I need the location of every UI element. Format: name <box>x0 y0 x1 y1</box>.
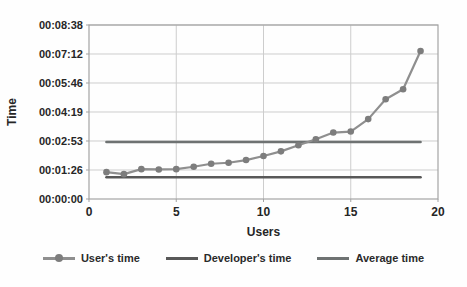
gridlines <box>89 25 438 199</box>
x-tick-label: 0 <box>86 205 93 219</box>
data-point <box>121 171 128 178</box>
data-point <box>103 169 110 176</box>
data-point <box>347 128 354 135</box>
data-point <box>225 159 232 166</box>
data-point <box>417 48 424 55</box>
data-point <box>382 96 389 103</box>
data-point <box>313 136 320 143</box>
average-time-line-swatch <box>317 257 349 260</box>
chart-legend: User's time Developer's time Average tim… <box>0 252 467 264</box>
x-axis-title: Users <box>247 225 281 239</box>
data-point <box>173 166 180 173</box>
y-tick-label: 00:07:12 <box>39 48 83 60</box>
line-chart: 00:00:0000:01:2600:02:5300:04:1900:05:46… <box>0 0 467 248</box>
data-point <box>138 166 145 173</box>
y-tick-label: 00:02:53 <box>39 135 83 147</box>
x-tick-label: 15 <box>344 205 358 219</box>
legend-label-developers-time: Developer's time <box>204 252 292 264</box>
data-point <box>260 153 267 160</box>
y-tick-label: 00:04:19 <box>39 106 83 118</box>
y-axis-title: Time <box>5 98 19 126</box>
data-point <box>330 129 337 136</box>
legend-label-users-time: User's time <box>81 252 140 264</box>
y-axis: 00:00:0000:01:2600:02:5300:04:1900:05:46… <box>39 19 89 205</box>
x-axis: 05101520 <box>86 199 445 219</box>
legend-item-developers-time: Developer's time <box>166 252 292 264</box>
legend-item-users-time: User's time <box>43 252 140 264</box>
data-point <box>190 163 197 170</box>
x-tick-label: 5 <box>173 205 180 219</box>
chart-figure: 00:00:0000:01:2600:02:5300:04:1900:05:46… <box>0 0 467 287</box>
data-point <box>400 86 407 93</box>
legend-label-average-time: Average time <box>355 252 424 264</box>
data-point <box>295 142 302 149</box>
y-tick-label: 00:01:26 <box>39 164 83 176</box>
x-tick-label: 20 <box>431 205 445 219</box>
data-point <box>156 166 163 173</box>
users-time-marker-icon <box>55 254 63 262</box>
developers-time-line-swatch <box>166 257 198 260</box>
users-time-line-swatch <box>43 257 75 260</box>
y-tick-label: 00:05:46 <box>39 77 83 89</box>
x-tick-label: 10 <box>257 205 271 219</box>
y-tick-label: 00:08:38 <box>39 19 83 31</box>
data-point <box>278 148 285 155</box>
y-tick-label: 00:00:00 <box>39 193 83 205</box>
legend-item-average-time: Average time <box>317 252 424 264</box>
data-point <box>365 116 372 123</box>
data-point <box>243 157 250 164</box>
data-point <box>208 160 215 167</box>
